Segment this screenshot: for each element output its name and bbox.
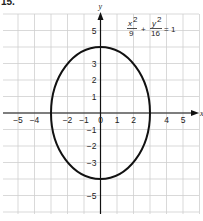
x-tick-label: −4 [30, 115, 40, 125]
x-axis-label: x [199, 109, 203, 118]
y-tick-label: 1 [92, 92, 97, 102]
y-tick-label: 2 [92, 75, 97, 85]
x-tick-label: 2 [131, 115, 136, 125]
x-tick-label: −2 [63, 115, 73, 125]
equation-plus: + [141, 25, 146, 34]
y-tick-label: −1 [87, 125, 97, 135]
x-tick-label: −1 [79, 115, 89, 125]
y-tick-label: −2 [87, 141, 97, 151]
equation-y-exponent: 2 [157, 15, 162, 24]
y-tick-label: 5 [92, 26, 97, 36]
x-tick-label: 0 [98, 115, 103, 125]
x-tick-label: 1 [115, 115, 120, 125]
x-axis-arrow-icon [191, 110, 199, 116]
equation-label: x29+y216= 1 [127, 15, 176, 38]
y-tick-label: −5 [87, 191, 97, 201]
y-tick-label: 3 [92, 59, 97, 69]
coordinate-plot: xy−5−4−2−1012455321−1−2−3−5x29+y216= 1 [0, 0, 203, 221]
equation-x-denominator: 9 [129, 29, 134, 38]
x-tick-label: −5 [13, 115, 23, 125]
x-tick-label: 5 [181, 115, 186, 125]
equation-x-exponent: 2 [133, 15, 138, 24]
x-tick-label: 4 [164, 115, 169, 125]
y-axis-label: y [98, 2, 103, 11]
y-axis-arrow-icon [98, 12, 104, 20]
equation-y-denominator: 16 [151, 29, 160, 38]
equation-rhs: = 1 [164, 25, 176, 34]
y-tick-label: −3 [87, 158, 97, 168]
